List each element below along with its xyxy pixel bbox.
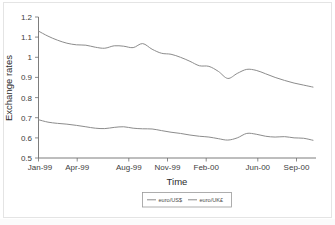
x-tick-label: Jan-99 xyxy=(28,163,53,172)
chart-plot-area: 1.2 1.1 1 0.9 0.8 0.7 0.6 0.5 Exchange r… xyxy=(0,0,335,225)
x-tick-label: Sep-00 xyxy=(284,163,310,172)
y-tick-label: 0.9 xyxy=(21,73,33,82)
series-line-euro-gbp xyxy=(39,120,314,141)
x-tick-label: Nov-99 xyxy=(155,163,181,172)
y-tick-label: 0.5 xyxy=(21,154,33,163)
x-axis-title: Time xyxy=(167,176,188,187)
x-axis-tick-labels: Jan-99 Apr-99 Aug-99 Nov-99 Feb-00 Jun-0… xyxy=(28,163,310,172)
chart-legend: euro/US$ euro/UK£ xyxy=(143,193,232,208)
x-tick-label: Apr-99 xyxy=(65,163,90,172)
series-line-euro-usd xyxy=(39,31,314,87)
y-axis-ticks xyxy=(35,17,39,158)
y-tick-label: 0.7 xyxy=(21,114,33,123)
y-tick-label: 1.1 xyxy=(21,33,33,42)
y-axis-title: Exchange rates xyxy=(3,55,14,121)
y-tick-label: 0.8 xyxy=(21,94,33,103)
x-axis-ticks xyxy=(39,158,297,162)
y-tick-label: 1.2 xyxy=(21,13,33,22)
y-tick-label: 0.6 xyxy=(21,134,33,143)
x-tick-label: Feb-00 xyxy=(194,163,220,172)
legend-label-euro-usd: euro/US$ xyxy=(159,197,184,203)
legend-label-euro-gbp: euro/UK£ xyxy=(200,197,225,203)
exchange-rates-chart-figure: 1.2 1.1 1 0.9 0.8 0.7 0.6 0.5 Exchange r… xyxy=(0,0,335,225)
x-tick-label: Aug-99 xyxy=(116,163,142,172)
y-axis-tick-labels: 1.2 1.1 1 0.9 0.8 0.7 0.6 0.5 xyxy=(21,13,33,163)
x-tick-label: Jun-00 xyxy=(246,163,271,172)
y-tick-label: 1 xyxy=(28,53,33,62)
